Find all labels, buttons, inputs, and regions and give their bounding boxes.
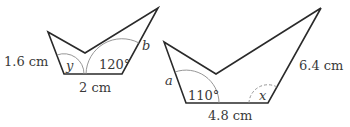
side-label-1-6cm: 1.6 cm <box>4 54 48 69</box>
angle-label-y: y <box>65 58 74 73</box>
diagram-canvas: 1.6 cm 2 cm b y 120° a 4.8 cm 6.4 cm 110… <box>0 0 350 127</box>
angle-label-120: 120° <box>99 57 130 72</box>
side-label-a: a <box>165 73 173 88</box>
angle-label-x: x <box>259 88 267 103</box>
similar-polygons-diagram: 1.6 cm 2 cm b y 120° a 4.8 cm 6.4 cm 110… <box>0 0 350 127</box>
angle-label-110: 110° <box>188 88 219 103</box>
small-polygon: 1.6 cm 2 cm b y 120° <box>4 8 158 95</box>
base-label-4-8cm: 4.8 cm <box>208 108 252 123</box>
side-label-b: b <box>142 38 150 53</box>
base-label-2cm: 2 cm <box>79 80 111 95</box>
large-polygon: a 4.8 cm 6.4 cm 110° x <box>164 8 343 123</box>
side-label-6-4cm: 6.4 cm <box>299 58 343 73</box>
